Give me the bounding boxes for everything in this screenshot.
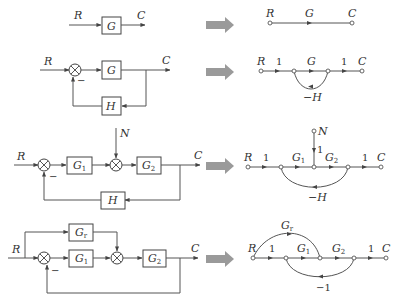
output-label-c: C [137, 9, 146, 22]
right-arrow-icon [206, 17, 234, 33]
branch-arrow-icon [329, 165, 334, 169]
branch-arrow-icon [307, 21, 312, 25]
node-r-label: R [243, 151, 252, 164]
block-h-label: H [105, 100, 116, 113]
summing-junction-2 [110, 159, 122, 171]
block-g-label: G [107, 64, 116, 77]
summing-junction-1 [38, 159, 50, 171]
branch-arrow-icon [312, 148, 316, 153]
branch-gain-minus-1: −1 [316, 282, 331, 293]
disturbance-label-n: N [119, 127, 130, 140]
node-n-label: N [317, 125, 328, 138]
branch-gain: 1 [276, 56, 282, 67]
branch-arrow-icon [275, 69, 280, 73]
branch-arrow-icon [308, 85, 313, 89]
right-arrow-icon [206, 64, 234, 80]
output-label-c: C [191, 242, 200, 255]
node-c-label: C [358, 55, 367, 68]
branch-arrow-icon [301, 256, 306, 260]
branch-gain-minus-h: −H [308, 191, 327, 204]
output-label-c: C [194, 149, 203, 162]
branch-arrow-icon [309, 69, 314, 73]
branch-gain-g: G [305, 7, 314, 20]
branch-gain: 1 [317, 144, 323, 155]
branch-arrow-icon [318, 275, 323, 279]
summer-sign-minus: − [49, 171, 57, 182]
feedback-branch [281, 167, 348, 187]
branch-gain-g1: G1 [292, 151, 305, 165]
summer-sign-minus: − [51, 265, 59, 276]
node-c-label: C [382, 242, 391, 255]
branch-arrow-icon [368, 256, 373, 260]
transform-arrow-1 [206, 17, 234, 33]
node-r [268, 21, 272, 25]
block-h-label: H [107, 194, 118, 207]
node-r [246, 165, 250, 169]
node-c [379, 165, 383, 169]
input-label-r: R [16, 150, 25, 163]
branch-gain: 1 [263, 152, 269, 163]
output-label-c: C [162, 54, 171, 67]
summing-junction-1 [38, 252, 50, 264]
transform-arrow-3 [206, 158, 234, 174]
branch-gain-g2: G2 [325, 151, 338, 165]
node-r [251, 256, 255, 260]
branch-gain-gr: Gr [281, 219, 294, 233]
signal-flow-graph-2: R 1 G 1 C −H [256, 55, 367, 104]
block-diagram-4: R Gr G1 G2 C − [8, 224, 200, 293]
node-r-label: R [247, 242, 256, 255]
branch-gain-minus-h: −H [303, 91, 322, 104]
block-g-label: G [107, 20, 116, 33]
node-r-label: R [256, 55, 265, 68]
transform-arrow-2 [206, 64, 234, 80]
node [346, 165, 350, 169]
node [292, 69, 296, 73]
node [326, 69, 330, 73]
input-label-r: R [43, 55, 52, 68]
node [312, 165, 316, 169]
feedforward-line [93, 232, 117, 251]
branch-arrow-icon [295, 165, 300, 169]
feedback-branch [286, 258, 354, 277]
node-c-label: C [348, 7, 357, 20]
block-diagram-1: R G C [69, 9, 146, 34]
node-c [360, 69, 364, 73]
summer-sign-minus: − [77, 75, 85, 86]
branch-arrow-icon [268, 256, 273, 260]
block-diagram-3: R G1 N G2 C H − [14, 127, 203, 209]
branch-gain-g: G [307, 55, 316, 68]
branch-gain-g1: G1 [297, 242, 310, 256]
node-r [259, 69, 263, 73]
branch-arrow-icon [312, 185, 317, 189]
branch-gain: 1 [368, 243, 374, 254]
branch-gain: 1 [341, 56, 347, 67]
input-label-r: R [11, 243, 20, 256]
node-r-label: R [265, 7, 274, 20]
node-c [384, 256, 388, 260]
signal-flow-graph-3: N 1 R 1 G1 G2 1 C −H [243, 125, 386, 204]
transform-arrow-4 [206, 251, 234, 267]
summing-junction-2 [111, 252, 123, 264]
node-c [350, 21, 354, 25]
branch-gain-g2: G2 [332, 242, 345, 256]
node [318, 256, 322, 260]
signal-flow-graph-1: R G C [265, 7, 357, 25]
signal-flow-graph-4: Gr R 1 G1 G2 1 C −1 [247, 219, 391, 293]
branch-arrow-icon [362, 165, 367, 169]
node-c-label: C [377, 151, 386, 164]
branch-gain: 1 [362, 152, 368, 163]
block-diagram-2: R G C H − [40, 54, 171, 115]
node-n [312, 129, 316, 133]
branch-arrow-icon [335, 256, 340, 260]
feedback-line [122, 70, 146, 106]
right-arrow-icon [206, 251, 234, 267]
branch-arrow-icon [262, 165, 267, 169]
input-label-r: R [73, 9, 82, 22]
right-arrow-icon [206, 158, 234, 174]
node [352, 256, 356, 260]
branch-gain: 1 [269, 243, 275, 254]
block-diagram-to-signal-flow-figure: R G C R G C R G C H − [0, 0, 398, 304]
node [279, 165, 283, 169]
node [284, 256, 288, 260]
branch-arrow-icon [342, 69, 347, 73]
